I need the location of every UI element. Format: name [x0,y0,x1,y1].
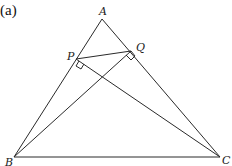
label-b: B [4,156,13,166]
segment-ab [14,19,102,157]
label-c: C [222,154,231,166]
label-q: Q [136,41,145,54]
triangle-diagram: (a) A P Q B C [0,0,232,166]
segment-ac [102,19,220,157]
label-a: A [98,5,107,18]
figure-tag: (a) [0,2,17,19]
segment-pc [76,59,220,157]
segment-qb [14,51,131,157]
label-p: P [66,50,75,63]
